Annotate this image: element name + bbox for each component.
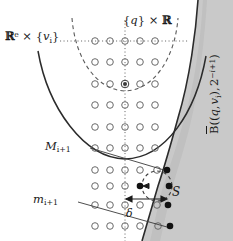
dashed-ball-tick-marks [143, 183, 149, 188]
label-base-space: ℝe × {vi} [5, 31, 59, 44]
lattice-open-points [92, 38, 162, 230]
math-figure: ℝe × {vi} {q} × ℝ Mi+1 mi+1 δ S B((q, vi… [0, 0, 233, 241]
label-region-S: S [172, 186, 180, 198]
label-fiber: {q} × ℝ [123, 15, 171, 27]
label-closed-ball: B((q, vi), 2−i+1) [209, 54, 222, 134]
label-delta-spacing: δ [126, 208, 133, 219]
label-lower-bound: mi+1 [33, 194, 58, 207]
label-upper-bound: Mi+1 [45, 141, 71, 154]
